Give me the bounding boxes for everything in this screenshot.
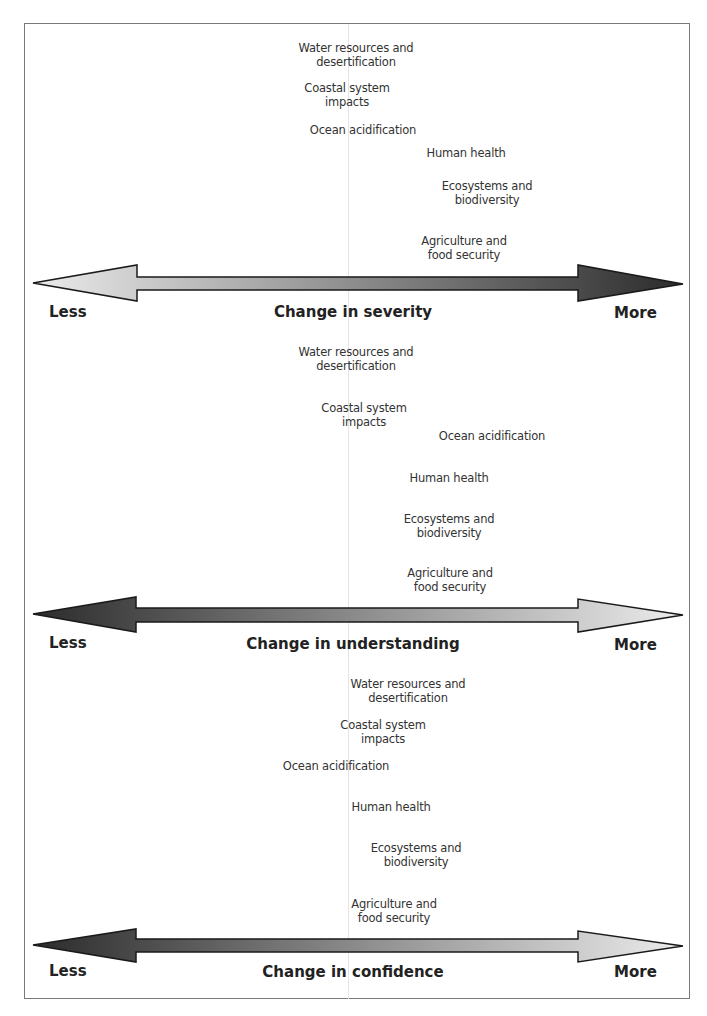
item-agriculture: Agriculture and food security: [407, 566, 493, 594]
item-ecosystems: Ecosystems and biodiversity: [371, 841, 462, 869]
more-label: More: [614, 304, 657, 322]
figure-frame: [24, 23, 690, 999]
item-ecosystems: Ecosystems and biodiversity: [404, 512, 495, 540]
less-label: Less: [49, 962, 87, 980]
center-reference-line: [348, 24, 349, 999]
item-agriculture: Agriculture and food security: [421, 234, 507, 262]
item-ocean-acidification: Ocean acidification: [283, 759, 389, 773]
double-arrow-confidence-icon: [0, 926, 707, 966]
item-water-resources: Water resources and desertification: [299, 41, 414, 69]
item-human-health: Human health: [426, 146, 505, 160]
more-label: More: [614, 636, 657, 654]
double-arrow-understanding-icon: [0, 594, 707, 636]
less-label: Less: [49, 634, 87, 652]
item-water-resources: Water resources and desertification: [351, 677, 466, 705]
item-ocean-acidification: Ocean acidification: [439, 429, 545, 443]
item-coastal-systems: Coastal system impacts: [340, 718, 425, 746]
axis-title-understanding: Change in understanding: [246, 635, 460, 653]
item-agriculture: Agriculture and food security: [351, 897, 437, 925]
item-ecosystems: Ecosystems and biodiversity: [442, 179, 533, 207]
item-ocean-acidification: Ocean acidification: [310, 123, 416, 137]
double-arrow-severity-icon: [0, 262, 707, 304]
item-coastal-systems: Coastal system impacts: [321, 401, 406, 429]
axis-title-confidence: Change in confidence: [262, 963, 443, 981]
item-coastal-systems: Coastal system impacts: [304, 81, 389, 109]
less-label: Less: [49, 303, 87, 321]
more-label: More: [614, 963, 657, 981]
axis-title-severity: Change in severity: [274, 303, 432, 321]
item-human-health: Human health: [409, 471, 488, 485]
item-human-health: Human health: [351, 800, 430, 814]
item-water-resources: Water resources and desertification: [299, 345, 414, 373]
